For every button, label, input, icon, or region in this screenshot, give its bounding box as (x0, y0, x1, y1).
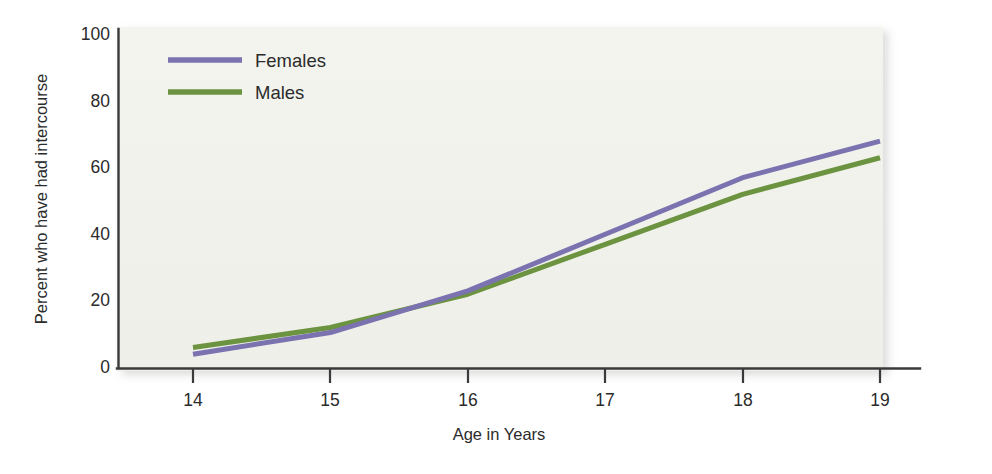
x-axis-title: Age in Years (453, 425, 546, 443)
x-tick-label-16: 16 (458, 390, 477, 410)
x-tick-label-14: 14 (183, 390, 203, 410)
y-axis-title: Percent who have had intercourse (32, 74, 50, 324)
figure-container: 0 20 40 60 80 100 14 15 16 17 18 19 Age … (0, 0, 992, 474)
legend-label-females: Females (255, 50, 326, 71)
legend-label-males: Males (255, 82, 304, 103)
x-tick-label-17: 17 (595, 390, 614, 410)
x-tick-label-18: 18 (733, 390, 752, 410)
y-tick-label-20: 20 (91, 290, 111, 310)
y-tick-label-0: 0 (100, 357, 110, 377)
y-tick-label-60: 60 (91, 157, 111, 177)
x-tick-label-19: 19 (870, 390, 889, 410)
y-tick-label-80: 80 (91, 91, 111, 111)
y-tick-label-40: 40 (91, 224, 111, 244)
x-tick-label-15: 15 (320, 390, 339, 410)
y-tick-label-100: 100 (81, 24, 110, 44)
line-chart: 0 20 40 60 80 100 14 15 16 17 18 19 Age … (0, 0, 992, 474)
plot-panel-background (117, 27, 883, 371)
